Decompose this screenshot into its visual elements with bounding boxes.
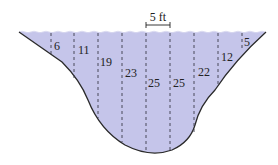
depth-label: 23 [125,66,137,80]
depth-label: 12 [221,50,233,64]
scale-label: 5 ft [150,10,167,24]
depth-label: 19 [100,55,112,69]
depth-label: 22 [198,65,210,79]
depth-label: 6 [54,39,60,53]
depth-label: 11 [78,43,90,57]
depth-label: 25 [173,76,185,90]
depth-label: 5 [244,35,250,49]
river-cross-section-diagram: 5 ft 6 11 19 23 25 25 22 12 5 [0,0,278,165]
depth-label: 25 [148,76,160,90]
